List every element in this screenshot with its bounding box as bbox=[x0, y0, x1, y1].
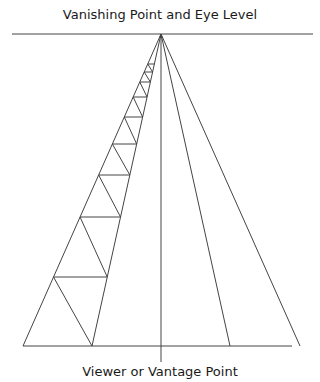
perspective-diagram bbox=[0, 0, 320, 382]
perspective-ray bbox=[92, 34, 161, 346]
ladder-diagonal bbox=[148, 64, 153, 72]
ladder-diagonal bbox=[140, 82, 147, 97]
ladder-diagonal bbox=[54, 277, 92, 346]
ladder-diagonal bbox=[80, 217, 107, 277]
ladder-diagonal bbox=[144, 72, 150, 82]
perspective-ray bbox=[23, 34, 161, 346]
viewer-label: Viewer or Vantage Point bbox=[0, 364, 320, 379]
ladder-diagonal bbox=[124, 117, 136, 144]
perspective-ray bbox=[161, 34, 300, 346]
perspective-ray bbox=[161, 34, 230, 346]
ladder-diagonal bbox=[112, 144, 129, 175]
ladder-diagonal bbox=[99, 175, 121, 217]
ladder-diagonal bbox=[133, 97, 143, 117]
